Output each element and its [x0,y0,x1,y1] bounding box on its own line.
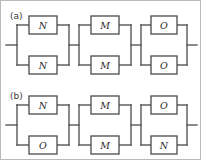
component-label: M [99,140,110,151]
panel-b-label: (b) [10,91,23,101]
component-label: O [160,60,168,71]
component-label: M [99,100,110,111]
panel-a: (a) N N [6,11,197,74]
panel-b: (b) N O [6,91,197,154]
component-label: N [38,60,48,71]
panel-a-block-2: M M [79,16,131,74]
component-label: N [38,100,48,111]
panel-a-block-1: N N [17,16,69,74]
component-label: O [160,20,168,31]
component-label: O [160,100,168,111]
panel-b-block-3: O N [141,96,187,154]
panel-b-block-2: M M [79,96,131,154]
component-label: N [38,20,48,31]
panel-a-label: (a) [10,11,23,21]
panel-b-block-1: N O [17,96,69,154]
figure-frame: (a) N N [0,0,201,160]
panel-a-block-3: O O [141,16,187,74]
component-label: M [99,60,110,71]
component-label: N [159,140,169,151]
component-label: O [39,140,47,151]
block-diagram-svg: (a) N N [1,1,201,160]
component-label: M [99,20,110,31]
